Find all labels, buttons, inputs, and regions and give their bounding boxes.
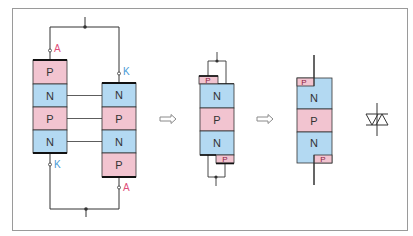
merged-bottom-p-label: P [222,155,227,164]
left-cathode-label: K [54,159,61,170]
merged-top-dot [215,59,218,62]
triac-bottom-p-label: P [320,155,325,164]
right-anode-label: A [123,182,130,193]
right-layer-2-label: P [115,113,122,125]
left-anode-terminal [49,49,52,52]
merged-layer-1-label: N [213,90,221,102]
top-junction-dot [83,25,87,29]
right-cathode-terminal [118,72,121,75]
merged-layer-2-label: P [213,114,220,126]
left-layer-1-label: P [46,66,53,78]
triac-layer-3-label: N [310,137,318,149]
left-layer-2-label: N [46,90,54,102]
triac-equivalent-diagram: P N P N A K N P N P K A [0,0,413,236]
right-layer-3-label: N [115,136,123,148]
merged-top-p-label: P [205,76,210,85]
merged-bottom-dot [214,175,217,178]
right-layer-4-label: P [115,159,122,171]
right-cathode-label: K [123,66,130,77]
left-layer-4-label: N [46,136,54,148]
left-anode-label: A [54,43,61,54]
left-cathode-terminal [49,163,52,166]
right-layer-1-label: N [115,89,123,101]
left-scr: P N P N A K [33,43,67,170]
right-anode-terminal [118,186,121,189]
merged-layer-3-label: N [213,137,221,149]
right-scr: N P N P K A [102,66,136,193]
triac-layer-1-label: N [310,92,318,104]
triac-top-p-label: P [301,78,306,87]
left-layer-3-label: P [46,113,53,125]
triac-layer-2-label: P [310,115,317,127]
bottom-junction-dot [84,207,88,211]
